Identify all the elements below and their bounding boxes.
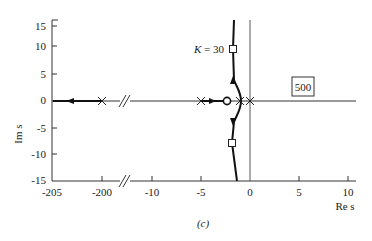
y-ticks: [52, 26, 57, 154]
x-tick-10: 10: [343, 186, 355, 198]
arrow-left-icon: [66, 98, 74, 104]
x-tick-5: 5: [296, 186, 302, 198]
x-tick-0: 0: [247, 186, 253, 198]
gain-marker-lower: [229, 140, 236, 147]
root-locus-plot: 15 10 5 0 -5 -10 -15 -205 -200 -10 -5 0 …: [0, 0, 372, 241]
locus-branch-upper: [233, 20, 241, 101]
x-ticks: [102, 176, 348, 181]
x-tick-neg5: -5: [196, 186, 206, 198]
figure-caption: (c): [197, 217, 210, 230]
arrow-right-icon: [209, 98, 216, 104]
zero-marker: [223, 97, 230, 104]
y-tick-0: 0: [41, 94, 47, 106]
x-tick-neg205: -205: [42, 186, 63, 198]
y-tick-labels: 15 10 5 0 -5 -10 -15: [31, 20, 46, 186]
x-axis-break-mark: [119, 175, 130, 187]
real-axis-break-mark: [119, 95, 130, 107]
annotation-500: 500: [295, 81, 312, 93]
gain-annotation: K = 30: [193, 43, 225, 55]
y-tick-neg10: -10: [31, 148, 46, 160]
x-tick-neg10: -10: [145, 186, 160, 198]
y-tick-neg5: -5: [37, 122, 47, 134]
x-tick-neg200: -200: [92, 186, 113, 198]
y-tick-neg15: -15: [31, 174, 46, 186]
gain-marker-upper: [230, 46, 237, 53]
arrow-down-icon: [230, 118, 236, 126]
x-tick-labels: -205 -200 -10 -5 0 5 10: [42, 186, 354, 198]
y-tick-5: 5: [41, 68, 47, 80]
arrow-up-icon: [230, 76, 236, 84]
y-tick-10: 10: [35, 40, 47, 52]
x-axis-label: Re s: [335, 200, 354, 212]
y-axis-label: Im s: [12, 124, 24, 143]
y-tick-15: 15: [35, 20, 47, 32]
